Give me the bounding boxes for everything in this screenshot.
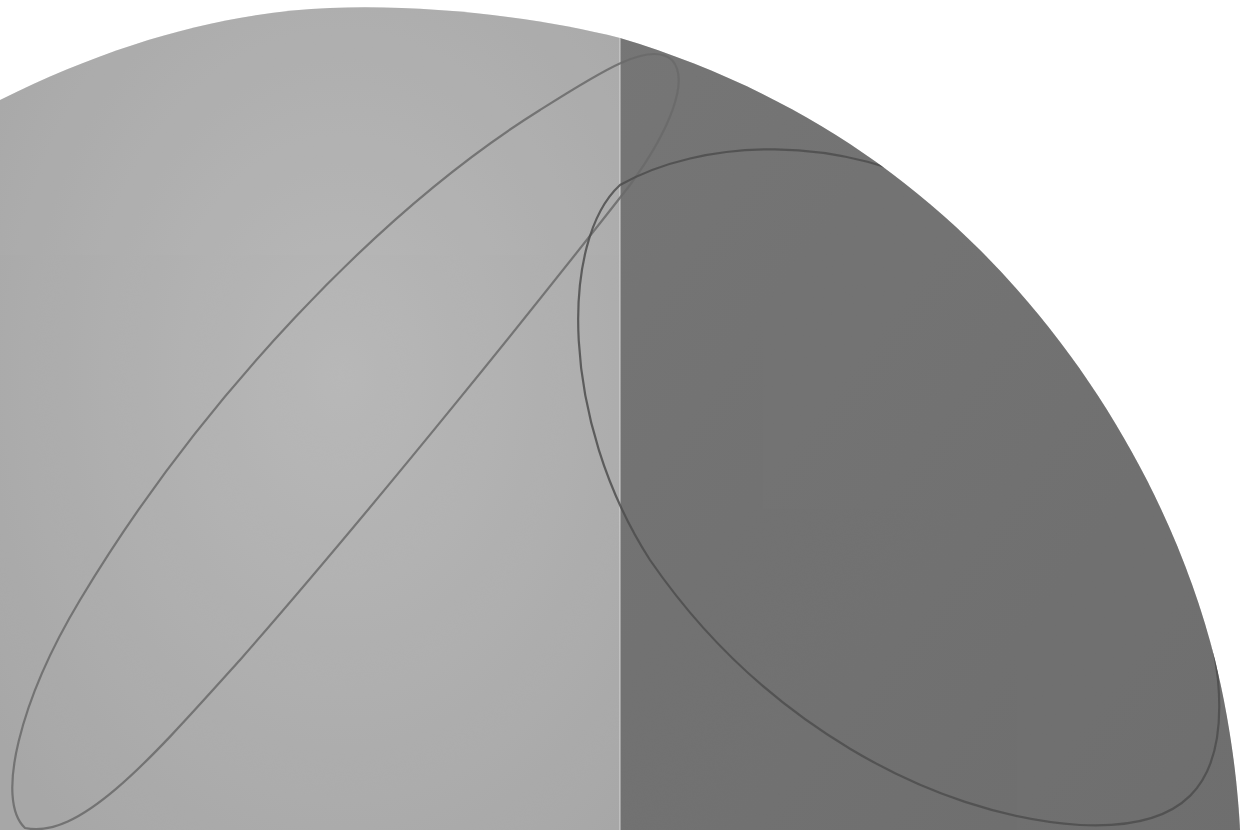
canvas-body — [0, 0, 1253, 835]
shaped-canvas-artwork — [0, 0, 1253, 835]
